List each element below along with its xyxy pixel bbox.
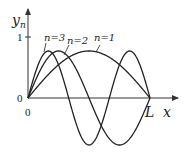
standing-wave-diagram: y n 1 0 0 L x n=3 n=2 n=1 [0,0,187,153]
x-axis-label: x [163,104,171,120]
curve-n1 [28,51,150,98]
y-tick-zero-label: 0 [17,92,23,104]
curve-label-n3: n=3 [44,32,65,43]
leader-n2 [64,45,69,55]
y-axis-subscript: n [20,20,26,30]
y-tick-one-label: 1 [17,31,23,43]
leader-n1 [96,45,100,52]
x-end-label: L [144,104,154,120]
leader-n3 [44,43,46,52]
curve-label-n1: n=1 [94,32,115,43]
origin-label: 0 [25,106,31,118]
curve-label-n2: n=2 [67,35,88,46]
